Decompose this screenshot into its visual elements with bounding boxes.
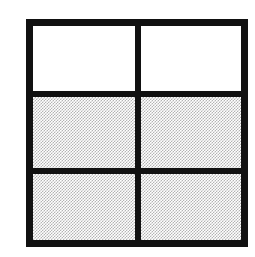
cell-r3-c1 [33, 174, 135, 240]
cell-r3-c2 [141, 174, 241, 240]
figure-canvas [0, 0, 255, 257]
cell-r1-c2 [141, 26, 241, 91]
cell-r2-c1 [33, 97, 135, 167]
cell-r2-c2 [141, 97, 241, 167]
grid-figure [26, 19, 248, 247]
cell-r1-c1 [33, 26, 135, 91]
